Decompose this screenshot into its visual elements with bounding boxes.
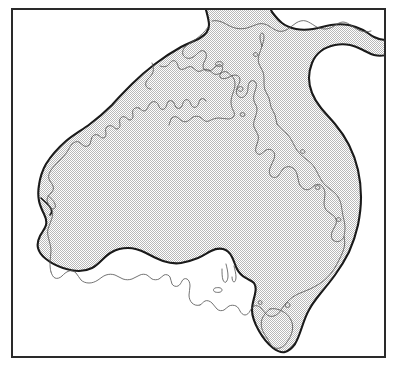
map-figure [0, 0, 397, 369]
map-canvas [0, 0, 397, 369]
